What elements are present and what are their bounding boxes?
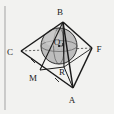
geometry-figure: B C F A M R O: [0, 0, 114, 114]
label-R: R: [59, 67, 65, 77]
label-O: O: [54, 37, 61, 47]
label-M: M: [29, 73, 37, 83]
figure-canvas: B C F A M R O: [0, 0, 114, 114]
label-F: F: [96, 44, 101, 54]
label-C: C: [7, 47, 13, 57]
label-B: B: [57, 7, 63, 17]
label-A: A: [69, 95, 76, 105]
